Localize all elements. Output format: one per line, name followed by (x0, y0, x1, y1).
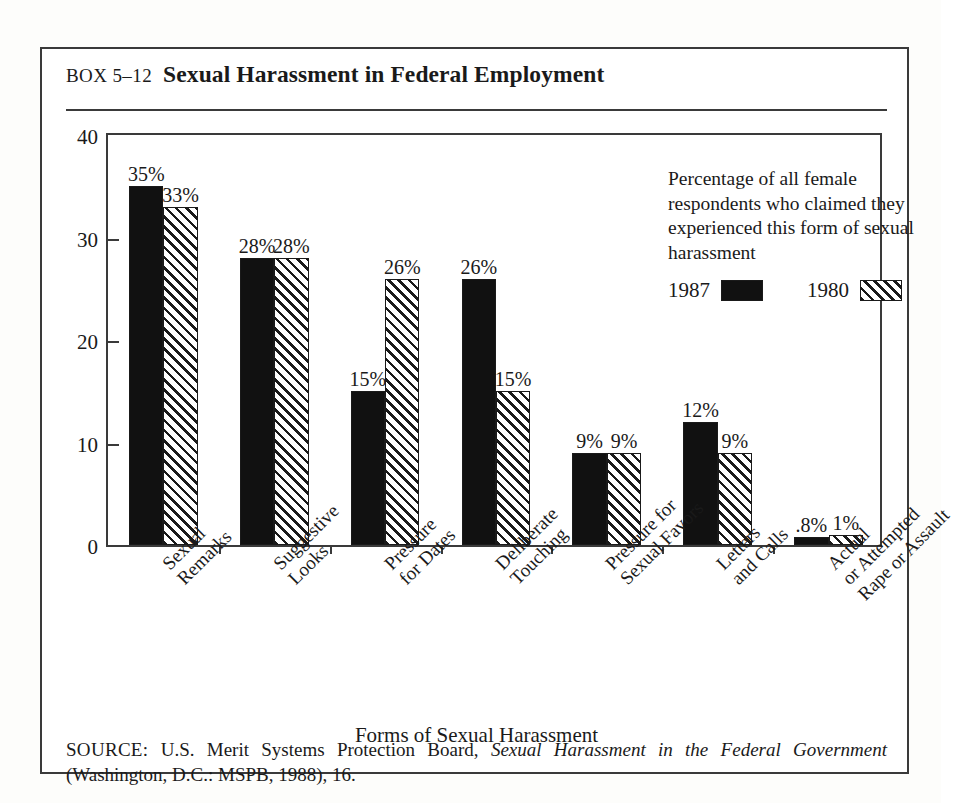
bar-1980: 15% (496, 391, 530, 545)
bar-value-label: 28% (239, 236, 276, 256)
bar-1987: 26% (462, 279, 496, 546)
bar-value-label: 9% (611, 431, 638, 451)
y-axis-tick-label: 0 (88, 537, 99, 558)
bar-1987: 9% (572, 453, 606, 545)
legend-description: Percentage of all female respondents who… (668, 167, 936, 265)
legend-keys: 1987 1980 (668, 278, 936, 303)
box-header: BOX 5–12 Sexual Harassment in Federal Em… (66, 61, 886, 107)
bar-value-label: 15% (350, 369, 387, 389)
y-axis-tick-label: 20 (77, 332, 98, 353)
source-text-before: U.S. Merit Systems Protection Board, (148, 739, 491, 760)
bar-value-label: .8% (796, 515, 828, 535)
legend-swatch-1987 (721, 280, 763, 301)
bar-value-label: 12% (682, 400, 719, 420)
bar-value-label: 9% (722, 431, 749, 451)
bar-group: 26%15% (462, 135, 531, 545)
source-keyword: SOURCE: (66, 739, 148, 760)
chart-area: 010203040 35%33%28%28%15%26%26%15%9%9%12… (42, 115, 911, 715)
bar-value-label: 26% (384, 257, 421, 277)
page-title: Sexual Harassment in Federal Employment (163, 61, 604, 88)
bar-group: 28%28% (240, 135, 309, 545)
plot-frame: 010203040 35%33%28%28%15%26%26%15%9%9%12… (106, 133, 882, 547)
bar-value-label: 9% (576, 431, 603, 451)
bar-group: 35%33% (129, 135, 198, 545)
bar-1980: 33% (163, 207, 197, 545)
bar-1980: 28% (274, 258, 308, 545)
source-note: SOURCE: U.S. Merit Systems Protection Bo… (66, 737, 887, 787)
y-axis-tick-label: 30 (77, 229, 98, 250)
legend-swatch-1980 (860, 280, 902, 301)
legend-label-1980: 1980 (807, 278, 849, 303)
bar-value-label: 33% (162, 185, 199, 205)
bar-1987: 35% (129, 186, 163, 545)
bar-group: 9%9% (572, 135, 641, 545)
legend: Percentage of all female respondents who… (668, 167, 936, 303)
bar-1987: .8% (794, 537, 828, 545)
bar-value-label: 15% (495, 369, 532, 389)
plot-inner: 010203040 35%33%28%28%15%26%26%15%9%9%12… (108, 135, 880, 545)
bar-1987: 28% (240, 258, 274, 545)
box-container: BOX 5–12 Sexual Harassment in Federal Em… (40, 47, 909, 774)
bar-group: 15%26% (351, 135, 420, 545)
y-axis-tick-label: 10 (77, 434, 98, 455)
source-text-after: (Washington, D.C.: MSPB, 1988), 16. (66, 764, 356, 785)
bar-1980: 26% (385, 279, 419, 546)
bar-value-label: 35% (128, 164, 165, 184)
y-axis-tick-label: 40 (77, 127, 98, 148)
source-italic-title: Sexual Harassment in the Federal Governm… (491, 739, 887, 760)
bar-value-label: 26% (460, 257, 497, 277)
bar-1987: 15% (351, 391, 385, 545)
legend-label-1987: 1987 (668, 278, 710, 303)
header-divider (66, 109, 887, 111)
bar-value-label: 28% (273, 236, 310, 256)
box-number: BOX 5–12 (66, 65, 152, 87)
